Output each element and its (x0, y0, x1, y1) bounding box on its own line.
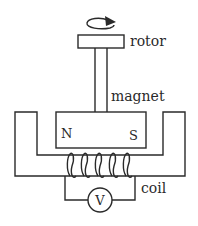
coil-label: coil (141, 180, 167, 196)
south-pole-label: S (129, 128, 138, 143)
voltmeter-label: V (94, 193, 105, 208)
generator-diagram: rotor magnet N S coil V (0, 0, 198, 226)
rotor (78, 35, 124, 48)
magnet-label: magnet (111, 88, 165, 104)
shaft (95, 48, 107, 112)
rotation-arrow-icon (87, 16, 116, 29)
rotor-label: rotor (130, 33, 166, 49)
coil-windings (67, 153, 132, 177)
north-pole-label: N (61, 126, 72, 141)
